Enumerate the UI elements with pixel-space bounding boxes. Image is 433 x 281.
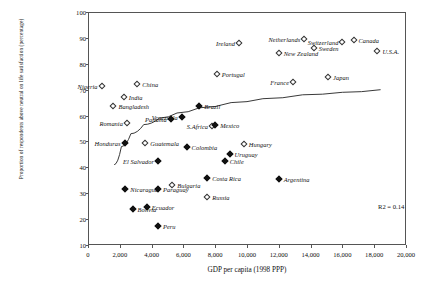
- x-tick-mark: [342, 245, 343, 248]
- x-tick-label: 4,000: [144, 251, 159, 258]
- x-tick-label: 18,000: [365, 251, 383, 258]
- point-label: Switzerland: [308, 38, 339, 45]
- x-tick-label: 6,000: [176, 251, 191, 258]
- point-label: Mexico: [220, 121, 239, 128]
- x-tick-mark: [183, 245, 184, 248]
- point-label: Bulgaria: [177, 182, 200, 189]
- point-label: Portugal: [222, 71, 245, 78]
- y-tick-mark: [86, 193, 89, 194]
- y-tick-label: 40: [64, 164, 86, 171]
- y-tick-mark: [86, 38, 89, 39]
- x-axis-ticks: 02,0004,0006,0008,00010,00012,00014,0001…: [0, 247, 433, 267]
- point-label: Nigeria: [78, 82, 98, 89]
- y-tick-mark: [86, 12, 89, 13]
- y-tick-label: 20: [64, 216, 86, 223]
- y-tick-mark: [86, 90, 89, 91]
- x-tick-mark: [406, 245, 407, 248]
- r-squared-annotation: R2 = 0.14: [378, 203, 404, 210]
- x-axis-label: GDP per capita (1998 PPP): [88, 266, 406, 274]
- y-axis-ticks: 102030405060708090100: [60, 0, 86, 281]
- point-label: Canada: [359, 37, 380, 44]
- y-tick-label: 30: [64, 190, 86, 197]
- y-tick-mark: [86, 116, 89, 117]
- y-tick-label: 100: [64, 9, 86, 16]
- point-label: El Salvador: [123, 157, 154, 164]
- x-tick-label: 10,000: [238, 251, 256, 258]
- point-label: Colombia: [192, 143, 218, 150]
- y-tick-mark: [86, 64, 89, 65]
- point-label: Bangladesh: [118, 103, 149, 110]
- point-label: India: [129, 94, 143, 101]
- point-label: Romania: [100, 120, 123, 127]
- y-tick-label: 50: [64, 138, 86, 145]
- point-label: Russia: [212, 194, 229, 201]
- y-tick-mark: [86, 219, 89, 220]
- y-tick-label: 60: [64, 112, 86, 119]
- y-tick-label: 80: [64, 60, 86, 67]
- x-tick-label: 8,000: [208, 251, 223, 258]
- x-tick-mark: [247, 245, 248, 248]
- point-label: Argentina: [284, 175, 310, 182]
- point-label: Ecuador: [152, 204, 174, 211]
- x-tick-mark: [279, 245, 280, 248]
- y-tick-label: 90: [64, 34, 86, 41]
- point-label: Brazil: [204, 103, 220, 110]
- y-axis-label: Proportion of respondents above neutral …: [18, 0, 24, 204]
- x-tick-label: 0: [86, 251, 89, 258]
- y-tick-mark: [86, 141, 89, 142]
- point-label: Honduras: [95, 139, 121, 146]
- point-label: China: [142, 81, 158, 88]
- point-label: Chile: [230, 157, 244, 164]
- x-tick-mark: [152, 245, 153, 248]
- point-label: France: [270, 78, 289, 85]
- scatter-chart: 102030405060708090100 02,0004,0006,0008,…: [0, 0, 433, 281]
- y-tick-mark: [86, 167, 89, 168]
- x-tick-label: 20,000: [397, 251, 415, 258]
- point-label: Peru: [163, 222, 176, 229]
- point-label: Hungary: [249, 141, 272, 148]
- point-label: Nicaragua: [130, 186, 158, 193]
- point-label: Sweden: [319, 45, 339, 52]
- x-tick-label: 12,000: [270, 251, 288, 258]
- point-label: U.S.A.: [382, 47, 399, 54]
- x-tick-mark: [215, 245, 216, 248]
- point-label: Netherlands: [268, 36, 300, 43]
- x-tick-mark: [120, 245, 121, 248]
- point-label: Costa Rica: [212, 174, 241, 181]
- x-tick-mark: [88, 245, 89, 248]
- point-label: Japan: [333, 73, 349, 80]
- point-label: Venezuela: [152, 113, 178, 120]
- x-tick-label: 2,000: [112, 251, 127, 258]
- x-tick-label: 14,000: [302, 251, 320, 258]
- point-label: S.Africa: [187, 122, 208, 129]
- plot-area: [88, 12, 406, 245]
- point-label: Guatemala: [150, 139, 179, 146]
- point-label: Ireland: [216, 40, 235, 47]
- x-tick-mark: [374, 245, 375, 248]
- x-tick-mark: [311, 245, 312, 248]
- x-tick-label: 16,000: [333, 251, 351, 258]
- point-label: New Zealand: [284, 50, 318, 57]
